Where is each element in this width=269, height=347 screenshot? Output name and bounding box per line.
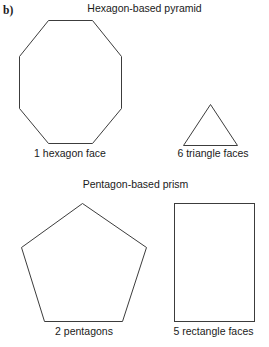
- triangle-outline: [184, 105, 238, 146]
- caption-hexagon-face: 1 hexagon face: [0, 147, 140, 160]
- pentagon-outline: [22, 204, 147, 322]
- triangle-shape: [160, 95, 269, 150]
- pentagon-svg: [0, 190, 160, 330]
- rectangle-shape: [160, 190, 269, 330]
- caption-triangle-faces: 6 triangle faces: [158, 147, 268, 160]
- octagon-shape: [0, 0, 140, 150]
- pentagon-shape: [0, 190, 160, 330]
- octagon-outline: [20, 21, 122, 144]
- worksheet-figure: b) Hexagon-based pyramid 1 hexagon face …: [0, 0, 269, 347]
- octagon-svg: [0, 0, 140, 150]
- caption-pentagons: 2 pentagons: [0, 325, 168, 338]
- rectangle-outline: [175, 204, 255, 322]
- triangle-svg: [160, 95, 269, 150]
- caption-rectangle-faces: 5 rectangle faces: [158, 325, 269, 338]
- rectangle-svg: [160, 190, 269, 330]
